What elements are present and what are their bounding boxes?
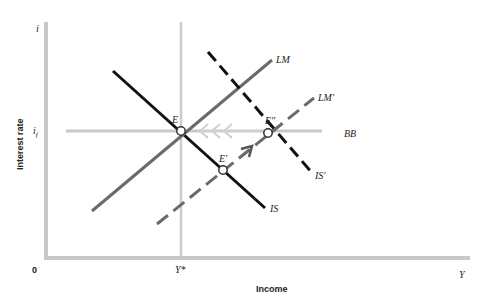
x-axis-title: Income	[256, 284, 288, 294]
origin-label: 0	[32, 265, 37, 275]
label-lm: LM	[275, 54, 291, 65]
point-e	[177, 127, 185, 135]
y-axis-symbol: i	[36, 23, 39, 34]
point-e-prime	[219, 166, 227, 174]
point-e-double-prime	[264, 129, 272, 137]
y-tick-i-f: if	[33, 125, 39, 139]
x-tick-y-star: Y*	[175, 264, 186, 275]
label-is: IS	[269, 203, 278, 214]
label-bb: BB	[344, 128, 356, 139]
label-is-prime: IS'	[314, 170, 326, 181]
label-lm-prime: LM'	[317, 92, 335, 103]
y-axis-title: Interest rate	[15, 118, 25, 170]
label-e-double-prime: E"	[264, 115, 276, 126]
left-arrows-icon	[200, 124, 260, 138]
is-curve	[113, 71, 265, 208]
label-e: E	[171, 114, 178, 125]
x-axis-symbol: Y	[459, 269, 466, 280]
label-e-prime: E'	[218, 153, 228, 164]
is-lm-bb-diagram: E E" E' LM LM' BB IS' IS i Y 0 if Y* Inc…	[0, 0, 482, 297]
